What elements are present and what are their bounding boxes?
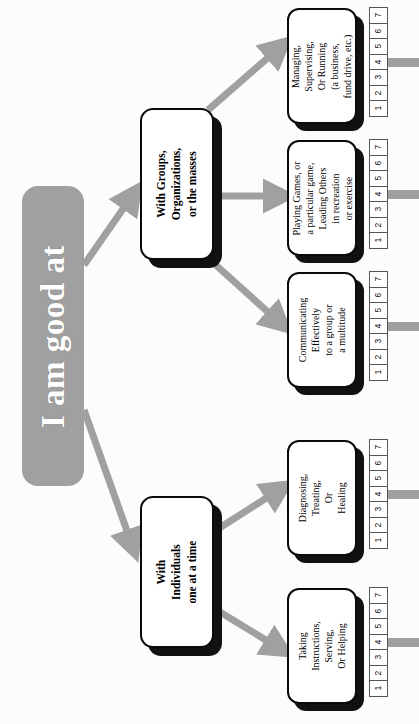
label-line: Or Helping xyxy=(335,621,348,671)
scale-cell-label: 5 xyxy=(374,476,383,481)
scale-cell-label: 2 xyxy=(374,90,383,95)
scale-cell-label: 4 xyxy=(374,191,383,196)
leaf-label-diagnosing: Diagnosing, Treating, Or Healing xyxy=(296,474,348,523)
rating-scale-playing[interactable]: 1234567 xyxy=(369,140,388,249)
scale-connector-playing xyxy=(388,190,419,199)
label-line: Healing xyxy=(335,474,348,523)
scale-cell-communicating-4[interactable]: 4 xyxy=(369,318,388,335)
scale-cell-diagnosing-4[interactable]: 4 xyxy=(369,486,388,503)
scale-cell-managing-1[interactable]: 1 xyxy=(369,100,388,117)
leaf-node-communicating[interactable]: Communicating Effectively to a group or … xyxy=(287,272,357,388)
scale-cell-playing-2[interactable]: 2 xyxy=(369,217,388,234)
arrow-groups-to-communicating xyxy=(208,258,279,322)
scale-cell-taking-2[interactable]: 2 xyxy=(369,665,388,682)
scale-cell-managing-7[interactable]: 7 xyxy=(369,7,388,24)
label-line: Individuals xyxy=(169,541,184,604)
scale-cell-communicating-5[interactable]: 5 xyxy=(369,302,388,319)
label-line: one at a time xyxy=(185,541,200,604)
leaf-node-managing[interactable]: Managing, Supervising, Or Running (a bus… xyxy=(287,8,357,124)
scale-cell-managing-2[interactable]: 2 xyxy=(369,85,388,102)
label-line: Communicating xyxy=(296,298,309,362)
scale-cell-label: 7 xyxy=(374,277,383,282)
scale-cell-label: 6 xyxy=(374,160,383,165)
scale-cell-playing-6[interactable]: 6 xyxy=(369,155,388,172)
leaf-node-diagnosing[interactable]: Diagnosing, Treating, Or Healing xyxy=(287,440,357,556)
category-label-groups: With Groups, Organizations, or the masse… xyxy=(154,148,200,221)
leaf-label-managing: Managing, Supervising, Or Running (a bus… xyxy=(290,34,355,98)
scale-cell-diagnosing-1[interactable]: 1 xyxy=(369,532,388,549)
scale-cell-communicating-1[interactable]: 1 xyxy=(369,364,388,381)
label-line: Or Running xyxy=(316,34,329,98)
diagram-canvas: I am good at With Groups, Organizations,… xyxy=(0,0,419,724)
label-line: Playing Games, or xyxy=(290,161,303,235)
scale-cell-taking-5[interactable]: 5 xyxy=(369,618,388,635)
scale-cell-managing-5[interactable]: 5 xyxy=(369,38,388,55)
scale-cell-playing-7[interactable]: 7 xyxy=(369,139,388,156)
scale-cell-label: 5 xyxy=(374,308,383,313)
scale-cell-playing-5[interactable]: 5 xyxy=(369,170,388,187)
label-line: to a group or xyxy=(322,298,335,362)
scale-cell-diagnosing-7[interactable]: 7 xyxy=(369,439,388,456)
leaf-label-communicating: Communicating Effectively to a group or … xyxy=(296,298,348,362)
scale-cell-label: 6 xyxy=(374,292,383,297)
category-node-individuals[interactable]: With Individuals one at a time xyxy=(140,496,214,648)
scale-cell-label: 7 xyxy=(374,445,383,450)
scale-cell-taking-7[interactable]: 7 xyxy=(369,587,388,604)
scale-cell-label: 2 xyxy=(374,522,383,527)
scale-cell-diagnosing-6[interactable]: 6 xyxy=(369,455,388,472)
scale-cell-taking-6[interactable]: 6 xyxy=(369,603,388,620)
leaf-label-taking: Taking Instructions, Serving, Or Helping xyxy=(296,621,348,671)
scale-cell-managing-4[interactable]: 4 xyxy=(369,54,388,71)
scale-cell-label: 1 xyxy=(374,106,383,111)
scale-cell-taking-3[interactable]: 3 xyxy=(369,649,388,666)
label-line: in recreation xyxy=(329,161,342,235)
scale-cell-label: 3 xyxy=(374,207,383,212)
label-line: Treating, xyxy=(309,474,322,523)
scale-cell-taking-4[interactable]: 4 xyxy=(369,634,388,651)
page-title: I am good at xyxy=(35,245,72,428)
scale-cell-label: 3 xyxy=(374,75,383,80)
label-line: With xyxy=(154,541,169,604)
scale-cell-communicating-6[interactable]: 6 xyxy=(369,287,388,304)
scale-cell-label: 5 xyxy=(374,624,383,629)
root-node[interactable]: I am good at xyxy=(22,186,84,486)
label-line: Effectively xyxy=(309,298,322,362)
scale-cell-diagnosing-3[interactable]: 3 xyxy=(369,501,388,518)
scale-cell-label: 7 xyxy=(374,13,383,18)
rating-scale-diagnosing[interactable]: 1234567 xyxy=(369,440,388,549)
rating-scale-taking[interactable]: 1234567 xyxy=(369,588,388,697)
scale-cell-label: 6 xyxy=(374,28,383,33)
scale-cell-diagnosing-2[interactable]: 2 xyxy=(369,517,388,534)
scale-cell-label: 3 xyxy=(374,339,383,344)
scale-cell-taking-1[interactable]: 1 xyxy=(369,680,388,697)
scale-cell-playing-3[interactable]: 3 xyxy=(369,201,388,218)
scale-cell-label: 2 xyxy=(374,222,383,227)
scale-cell-label: 5 xyxy=(374,176,383,181)
scale-cell-communicating-2[interactable]: 2 xyxy=(369,349,388,366)
scale-cell-communicating-3[interactable]: 3 xyxy=(369,333,388,350)
label-line: With Groups, xyxy=(154,148,169,221)
scale-connector-taking xyxy=(388,638,419,647)
label-line: fund drive, etc.) xyxy=(342,34,355,98)
arrow-root-to-groups xyxy=(84,196,132,265)
scale-cell-managing-3[interactable]: 3 xyxy=(369,69,388,86)
scale-cell-label: 1 xyxy=(374,238,383,243)
scale-cell-label: 4 xyxy=(374,59,383,64)
leaf-node-playing[interactable]: Playing Games, or a particular game, Lea… xyxy=(287,140,357,256)
scale-cell-label: 5 xyxy=(374,44,383,49)
rating-scale-managing[interactable]: 1234567 xyxy=(369,8,388,117)
label-line: Or xyxy=(322,474,335,523)
scale-cell-managing-6[interactable]: 6 xyxy=(369,23,388,40)
scale-cell-diagnosing-5[interactable]: 5 xyxy=(369,470,388,487)
scale-cell-playing-4[interactable]: 4 xyxy=(369,186,388,203)
category-node-groups[interactable]: With Groups, Organizations, or the masse… xyxy=(140,108,214,260)
label-line: or the masses xyxy=(185,148,200,221)
rating-scale-communicating[interactable]: 1234567 xyxy=(369,272,388,381)
scale-cell-label: 1 xyxy=(374,686,383,691)
label-line: a particular game, xyxy=(303,161,316,235)
leaf-node-taking[interactable]: Taking Instructions, Serving, Or Helping xyxy=(287,588,357,704)
scale-cell-communicating-7[interactable]: 7 xyxy=(369,271,388,288)
leaf-label-playing: Playing Games, or a particular game, Lea… xyxy=(290,161,355,235)
label-line: Managing, xyxy=(290,34,303,98)
scale-cell-playing-1[interactable]: 1 xyxy=(369,232,388,249)
